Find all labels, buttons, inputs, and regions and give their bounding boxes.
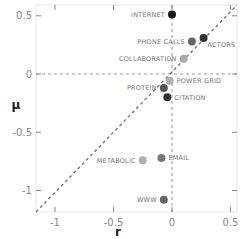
y-tick-label: -1: [22, 185, 32, 196]
data-point: [166, 77, 174, 85]
y-tick-label: 0: [26, 69, 32, 80]
y-tick-label: -0.5: [12, 127, 32, 138]
data-point-label: COLLABORATION: [119, 55, 177, 63]
data-point-label: EMAIL: [168, 154, 189, 162]
y-tick-label: 0.5: [16, 10, 32, 21]
data-point: [160, 84, 168, 92]
data-point-label: WWW: [137, 196, 157, 204]
data-points: INTERNETPHONE CALLSACTORSCOLLABORATIONPO…: [97, 11, 236, 205]
data-point: [200, 34, 208, 42]
scatter-chart: -1-0.500.50.50-0.5-1 INTERNETPHONE CALLS…: [0, 0, 249, 239]
data-point: [163, 93, 171, 101]
data-point-label: METABOLIC: [97, 157, 136, 165]
data-point-label: PHONE CALLS: [137, 38, 185, 46]
data-point: [139, 156, 147, 164]
data-point-label: ACTORS: [208, 41, 236, 49]
data-point: [168, 11, 176, 19]
data-point-label: PROTEIN: [127, 84, 157, 92]
data-point-label: CITATION: [174, 94, 205, 102]
x-tick-label: -1: [50, 217, 60, 228]
x-tick-label: 0.5: [223, 217, 239, 228]
data-point: [157, 154, 165, 162]
data-point-label: INTERNET: [131, 11, 165, 19]
data-point-label: POWER GRID: [177, 77, 222, 85]
data-point: [160, 196, 168, 204]
data-point: [180, 55, 188, 63]
y-axis-title: μ: [12, 98, 21, 112]
x-axis-title: r: [115, 225, 121, 239]
data-point: [188, 37, 196, 45]
x-tick-label: 0: [169, 217, 175, 228]
